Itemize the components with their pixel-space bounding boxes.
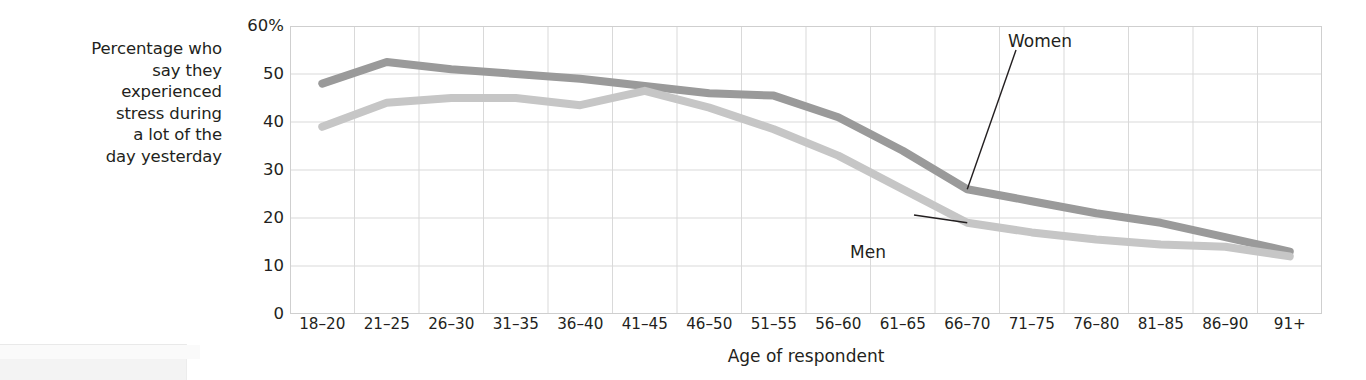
scan-artifact <box>0 344 187 380</box>
x-axis-tick-label: 56–60 <box>815 314 861 334</box>
x-axis-tick-label: 21–25 <box>364 314 410 334</box>
x-axis-tick-label: 86–90 <box>1202 314 1248 334</box>
x-axis-tick-labels: 18–2021–2526–3031–3536–4041–4546–5051–55… <box>290 314 1322 338</box>
y-axis-tick-label: 40 <box>222 114 284 131</box>
x-axis-tick-label: 66–70 <box>944 314 990 334</box>
y-axis-title-line: experienced <box>10 81 222 103</box>
x-axis-tick-label: 18–20 <box>299 314 345 334</box>
y-axis-title-line: a lot of the <box>10 124 222 146</box>
x-axis-tick-label: 36–40 <box>557 314 603 334</box>
y-axis-title-line: stress during <box>10 103 222 125</box>
x-axis-tick-label: 46–50 <box>686 314 732 334</box>
chart-canvas <box>290 26 1322 314</box>
y-axis-tick-label: 30 <box>222 162 284 179</box>
x-axis-tick-label: 61–65 <box>880 314 926 334</box>
series-label-women: Women <box>1008 31 1072 51</box>
y-axis-title-line: day yesterday <box>10 146 222 168</box>
x-axis-tick-label: 81–85 <box>1138 314 1184 334</box>
x-axis-title: Age of respondent <box>290 345 1322 367</box>
x-axis-tick-label: 91+ <box>1274 314 1306 334</box>
x-axis-tick-label: 51–55 <box>751 314 797 334</box>
y-axis-title-line: say they <box>10 60 222 82</box>
y-axis-title-line: Percentage who <box>10 38 222 60</box>
series-label-men: Men <box>850 242 886 262</box>
x-axis-tick-label: 31–35 <box>493 314 539 334</box>
x-axis-tick-label: 26–30 <box>428 314 474 334</box>
y-axis-tick-labels: 0102030405060% <box>222 0 284 379</box>
y-axis-tick-label: 20 <box>222 210 284 227</box>
y-axis-tick-label: 0 <box>222 306 284 323</box>
y-axis-title: Percentage who say they experienced stre… <box>10 38 222 167</box>
x-axis-tick-label: 71–75 <box>1009 314 1055 334</box>
x-axis-tick-label: 41–45 <box>622 314 668 334</box>
y-axis-tick-label: 10 <box>222 258 284 275</box>
y-axis-tick-label: 60% <box>222 18 284 35</box>
plot-area: WomenMen <box>290 26 1322 314</box>
x-axis-tick-label: 76–80 <box>1073 314 1119 334</box>
y-axis-tick-label: 50 <box>222 66 284 83</box>
scan-artifact-highlight <box>0 345 200 359</box>
